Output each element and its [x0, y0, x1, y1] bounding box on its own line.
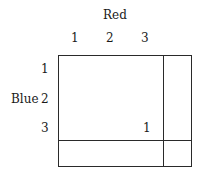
table-border-bottom	[58, 166, 192, 167]
row-label-2: 2	[41, 93, 49, 105]
column-label-1: 1	[71, 32, 79, 44]
column-variable-label: Red	[103, 9, 127, 21]
table-border-top	[58, 55, 192, 56]
row-label-1: 1	[41, 63, 49, 75]
row-label-3: 3	[41, 122, 49, 134]
table-border-left	[58, 55, 59, 167]
column-label-3: 3	[141, 32, 149, 44]
cell-r3-c3: 1	[143, 122, 151, 134]
row-variable-label: Blue	[11, 93, 39, 105]
column-label-2: 2	[106, 32, 114, 44]
table-border-right	[191, 55, 192, 167]
totals-column-divider	[163, 55, 164, 167]
totals-row-divider	[58, 140, 192, 141]
